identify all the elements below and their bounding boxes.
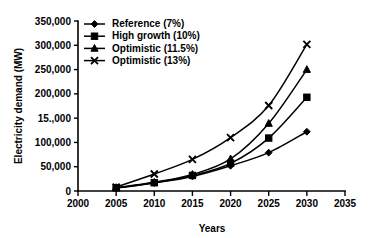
y-tick-label: 250,000 xyxy=(35,64,72,75)
legend-label: Optimistic (11.5%) xyxy=(112,43,198,54)
x-tick-label: 2005 xyxy=(105,198,128,209)
x-tick-label: 2000 xyxy=(67,198,90,209)
x-tick-label: 2020 xyxy=(219,198,242,209)
data-point-diamond xyxy=(265,149,272,156)
y-tick-label: 100,000 xyxy=(35,137,72,148)
data-point-square xyxy=(304,94,310,100)
legend-marker-diamond xyxy=(91,21,98,28)
x-tick-label: 2010 xyxy=(143,198,166,209)
y-tick-label: 350,000 xyxy=(35,16,72,27)
x-tick-label: 2025 xyxy=(258,198,281,209)
data-point-triangle xyxy=(303,66,310,73)
data-point-cross xyxy=(151,171,158,178)
legend-item: Reference (7%) xyxy=(84,18,184,29)
line-chart: 050,000100,00015.,000200,000250,000300,0… xyxy=(0,0,373,238)
data-point-cross xyxy=(265,102,272,109)
y-tick-label: 0 xyxy=(65,186,71,197)
x-tick-label: 2015 xyxy=(181,198,204,209)
x-tick-label: 2035 xyxy=(334,198,357,209)
legend-item: Optimistic (13%) xyxy=(84,55,190,66)
y-tick-label: 15.,000 xyxy=(38,113,72,124)
data-point-cross xyxy=(227,134,234,141)
legend-label: High growth (10%) xyxy=(112,30,200,41)
chart-container: 050,000100,00015.,000200,000250,000300,0… xyxy=(0,0,373,238)
legend-item: High growth (10%) xyxy=(84,30,200,41)
y-tick-label: 200,000 xyxy=(35,88,72,99)
x-axis-tick-labels: 20002005201020152020202520302035 xyxy=(67,198,357,209)
legend-label: Reference (7%) xyxy=(112,18,184,29)
y-tick-label: 50,000 xyxy=(40,161,71,172)
x-tick-label: 2030 xyxy=(296,198,319,209)
data-point-cross xyxy=(303,41,310,48)
data-point-triangle xyxy=(227,155,234,162)
y-axis-tick-labels: 050,000100,00015.,000200,000250,000300,0… xyxy=(35,16,72,197)
data-point-square xyxy=(266,135,272,141)
legend-label: Optimistic (13%) xyxy=(112,55,190,66)
x-axis-title: Years xyxy=(199,223,226,234)
data-point-diamond xyxy=(303,128,310,135)
legend: Reference (7%)High growth (10%)Optimisti… xyxy=(84,18,200,66)
legend-item: Optimistic (11.5%) xyxy=(84,43,198,54)
y-axis-title: Electricity demand (MW) xyxy=(13,48,24,164)
series-diamond xyxy=(113,128,311,191)
y-tick-label: 300,000 xyxy=(35,40,72,51)
data-point-cross xyxy=(189,156,196,163)
legend-marker-square xyxy=(91,33,97,39)
series-line xyxy=(116,132,307,188)
